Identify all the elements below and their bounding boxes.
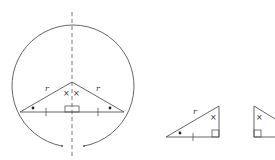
label-r-small: r [193, 107, 198, 116]
base-angle-dot-1 [179, 132, 182, 135]
apex-angle-mark-2: × [256, 113, 263, 122]
arc-end-left-marker [61, 145, 63, 147]
apex-angle-mark-left: × [63, 89, 70, 98]
base-angle-dot-right [109, 107, 112, 110]
base-angle-dot-left [32, 107, 35, 110]
right-angle-marker-2 [254, 130, 261, 137]
circle-arc [12, 25, 134, 146]
label-r-right: r [96, 84, 101, 93]
apex-angle-mark-right: × [73, 89, 80, 98]
arc-end-right-marker [83, 145, 85, 147]
label-r-left: r [45, 84, 50, 93]
diagram-canvas: × × r r × r × [0, 0, 275, 160]
right-angle-marker-1 [212, 130, 219, 137]
apex-angle-mark-1: × [210, 113, 217, 122]
